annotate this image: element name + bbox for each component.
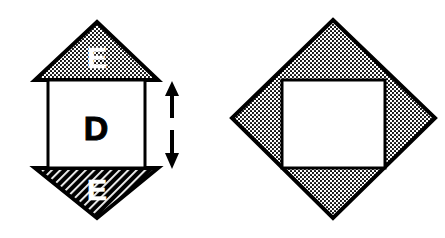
- diagram-canvas: E D E: [0, 0, 445, 238]
- label-triangle-bottom-e: E: [87, 173, 107, 206]
- arrowhead-up-icon: [165, 81, 179, 96]
- arrowhead-down-icon: [165, 153, 179, 169]
- figure-right: [232, 20, 435, 218]
- height-dimension-arrow: [165, 81, 179, 169]
- label-square-d: D: [84, 109, 109, 147]
- figure-left: E D E: [35, 22, 179, 218]
- inner-square-region: [282, 80, 385, 168]
- geometry-diagram: E D E: [0, 0, 445, 238]
- label-triangle-top-e: E: [87, 41, 107, 74]
